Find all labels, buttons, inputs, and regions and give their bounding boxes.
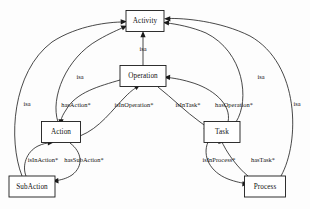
node-subaction[interactable]: SubAction <box>9 176 55 197</box>
edge-line <box>168 78 229 123</box>
diagram-canvas: Activity Operation Action Task SubAction… <box>0 0 310 209</box>
edge-label-action-hassubaction-subaction: hasSubAction* <box>64 156 104 163</box>
edge-subaction-isa-activity <box>15 19 127 176</box>
edge-action-isinoperation-operation <box>80 85 140 136</box>
edge-label-task-hasoperation-operation: hasOperation* <box>215 101 253 108</box>
edge-label-operation-isa-activity: isa <box>139 45 146 52</box>
ontology-diagram: Activity Operation Action Task SubAction… <box>0 0 310 209</box>
edge-process-isa-activity <box>164 16 293 176</box>
edge-label-operation-hasaction-action: hasAction* <box>61 101 91 108</box>
edge-label-subaction-isa-activity: isa <box>23 100 30 107</box>
edge-label-action-isa-activity: isa <box>76 73 83 80</box>
edge-label-task-hastask-process: hasTask* <box>251 156 275 163</box>
node-process[interactable]: Process <box>245 176 286 197</box>
node-activity-label: Activity <box>133 17 158 25</box>
node-operation[interactable]: Operation <box>120 66 166 87</box>
edge-task-hasoperation-operation <box>164 75 229 122</box>
edge-line <box>168 18 293 176</box>
node-task-label: Task <box>215 128 229 136</box>
edge-label-task-isintask-operation: isInTask* <box>175 101 200 108</box>
node-activity[interactable]: Activity <box>126 11 164 32</box>
node-task[interactable]: Task <box>204 122 240 143</box>
edge-label-process-isa-activity: isa <box>293 100 300 107</box>
edge-label-subaction-isinaction-action: isInAction* <box>28 156 59 163</box>
edge-label-process-isinprocess-task: isInProcess* <box>203 156 236 163</box>
node-process-label: Process <box>254 183 277 191</box>
edge-task-hastask-process <box>206 142 248 187</box>
arrowhead <box>164 16 170 21</box>
edge-label-action-isinoperation-operation: isInOperation* <box>114 101 153 108</box>
node-subaction-label: SubAction <box>16 183 48 191</box>
node-action-label: Action <box>51 128 71 136</box>
edge-label-task-isa-activity: isa <box>257 73 264 80</box>
node-operation-label: Operation <box>128 72 158 80</box>
node-action[interactable]: Action <box>42 122 81 143</box>
edge-line <box>80 87 137 136</box>
edge-line <box>15 22 123 176</box>
